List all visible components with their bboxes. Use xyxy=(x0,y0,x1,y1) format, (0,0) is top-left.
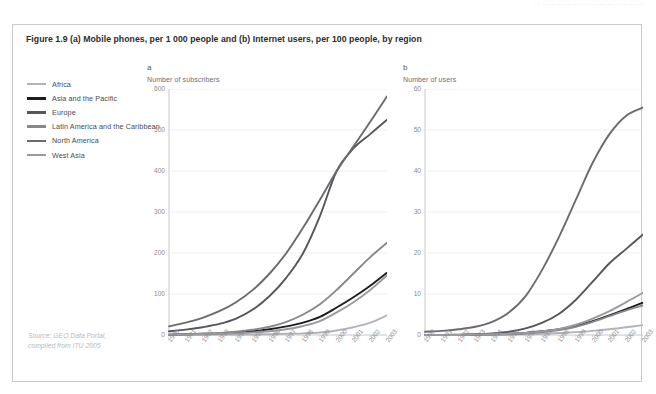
source-line-1: Source: GEO Data Portal, xyxy=(28,331,106,341)
legend-item-label: Asia and the Pacific xyxy=(52,94,117,103)
legend-swatch-icon xyxy=(27,154,46,157)
y-axis-tick-label: 600 xyxy=(147,85,165,92)
legend-swatch-icon xyxy=(27,111,46,114)
y-axis-tick-label: 10 xyxy=(403,290,421,297)
y-axis-tick-label: 100 xyxy=(147,290,165,297)
y-axis-tick-label: 30 xyxy=(403,208,421,215)
y-axis-tick-label: 60 xyxy=(403,85,421,92)
legend-item-label: Latin America and the Caribbean xyxy=(52,122,160,131)
panel-b-plot-area: 0102030405060199019911992199319941995199… xyxy=(403,89,643,337)
legend-item-label: West Asia xyxy=(52,151,85,160)
data-series-line xyxy=(169,120,387,332)
panel-a-letter: a xyxy=(147,63,151,72)
legend-item-label: North America xyxy=(52,136,99,145)
y-axis-tick-label: 500 xyxy=(147,126,165,133)
legend-swatch-icon xyxy=(27,97,46,100)
figure-source-note: Source: GEO Data Portal, compiled from I… xyxy=(28,331,106,350)
y-axis-tick-label: 300 xyxy=(147,208,165,215)
plot-a-svg xyxy=(147,89,387,337)
y-axis-tick-label: 200 xyxy=(147,249,165,256)
page-top-strip: · · ··· ·· ··· ·· · ·· ·· ·· ··· ··· · ·… xyxy=(0,0,656,18)
panel-a-y-axis-title: Number of subscribers xyxy=(147,76,220,83)
plot-b-svg xyxy=(403,89,643,337)
panel-a-plot-area: 0100200300400500600199019911992199319941… xyxy=(147,89,387,337)
panel-b-y-axis-title: Number of users xyxy=(403,76,456,83)
y-axis-tick-label: 400 xyxy=(147,167,165,174)
legend-swatch-icon xyxy=(27,125,46,128)
y-axis-tick-label: 20 xyxy=(403,249,421,256)
legend-item-label: Africa xyxy=(52,80,71,89)
y-axis-tick-label: 40 xyxy=(403,167,421,174)
y-axis-tick-label: 0 xyxy=(147,331,165,338)
y-axis-tick-label: 0 xyxy=(403,331,421,338)
data-series-line xyxy=(169,96,387,326)
source-line-2: compiled from ITU 2005 xyxy=(28,341,106,351)
data-series-line xyxy=(425,107,643,331)
legend-swatch-icon xyxy=(27,140,46,143)
legend-swatch-icon xyxy=(27,83,46,86)
data-series-line xyxy=(169,276,387,335)
y-axis-tick-label: 50 xyxy=(403,126,421,133)
legend-item-label: Europe xyxy=(52,108,76,117)
figure-caption: Figure 1.9 (a) Mobile phones, per 1 000 … xyxy=(26,34,422,44)
figure-panel: Figure 1.9 (a) Mobile phones, per 1 000 … xyxy=(12,24,642,382)
panel-b-letter: b xyxy=(403,63,407,72)
page-header-fragment: · · ··· ·· ··· ·· · ·· ·· ·· ··· ··· · ·… xyxy=(534,1,644,8)
